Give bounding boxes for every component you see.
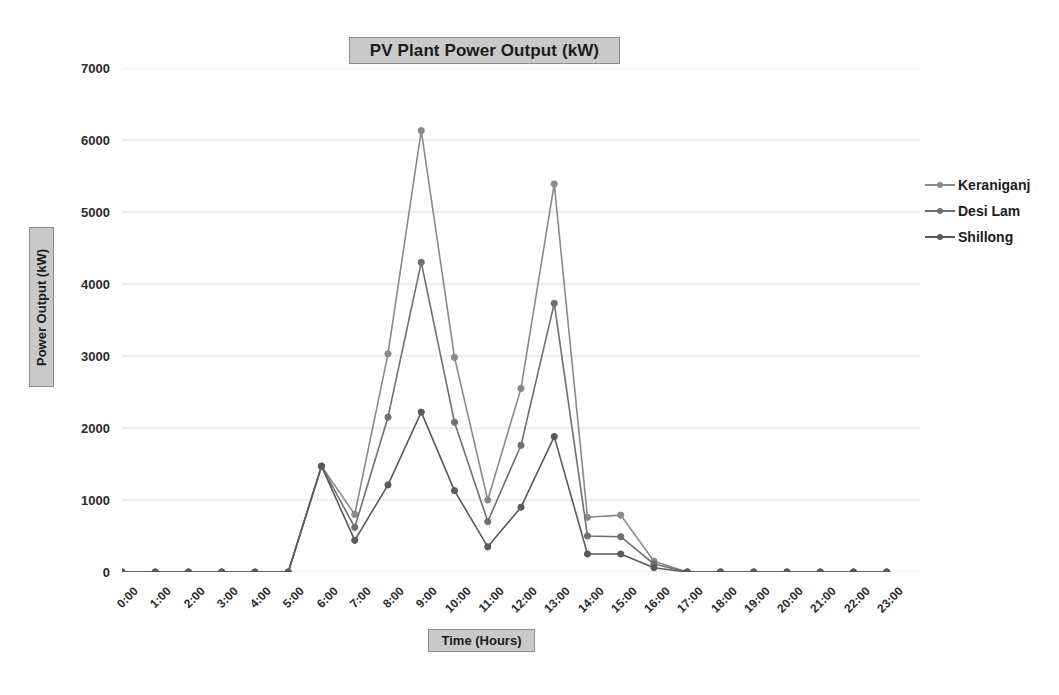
x-axis-tick-label: 14:00	[575, 584, 607, 616]
x-axis-tick-label: 3:00	[214, 584, 241, 611]
x-axis-tick-label: 1:00	[147, 584, 174, 611]
x-axis-tick-label: 12:00	[508, 584, 540, 616]
x-axis-tick-label: 19:00	[741, 584, 773, 616]
x-axis-tick-label: 20:00	[774, 584, 806, 616]
x-axis-tick-label: 18:00	[708, 584, 740, 616]
x-axis-tick-label: 21:00	[808, 584, 840, 616]
legend-item[interactable]: Keraniganj	[925, 172, 1055, 198]
x-axis-tick-label: 13:00	[542, 584, 574, 616]
legend-label: Shillong	[958, 229, 1013, 245]
x-axis-tick-label: 2:00	[181, 584, 208, 611]
legend-line-marker-icon	[925, 204, 955, 218]
x-axis-tick-label: 15:00	[608, 584, 640, 616]
x-axis-tick-label: 6:00	[314, 584, 341, 611]
pv-plant-power-output-chart: PV Plant Power Output (kW) Power Output …	[0, 0, 1059, 695]
x-axis-tick-label: 22:00	[841, 584, 873, 616]
legend-label: Desi Lam	[958, 203, 1020, 219]
x-axis-tick-label: 11:00	[476, 584, 507, 615]
x-axis-tick-label: 10:00	[442, 584, 474, 616]
x-axis-tick-label: 5:00	[280, 584, 307, 611]
chart-legend: KeraniganjDesi LamShillong	[925, 172, 1055, 250]
legend-label: Keraniganj	[958, 177, 1030, 193]
x-axis-tick-label: 16:00	[641, 584, 673, 616]
legend-item[interactable]: Shillong	[925, 224, 1055, 250]
legend-line-marker-icon	[925, 178, 955, 192]
x-axis-tick-label: 9:00	[413, 584, 440, 611]
x-axis-tick-label: 17:00	[675, 584, 707, 616]
x-axis-tick-label: 8:00	[380, 584, 407, 611]
x-axis-tick-label: 0:00	[114, 584, 141, 611]
x-axis-tick-label: 4:00	[247, 584, 274, 611]
legend-line-marker-icon	[925, 230, 955, 244]
legend-item[interactable]: Desi Lam	[925, 198, 1055, 224]
x-axis-tick-labels: 0:001:002:003:004:005:006:007:008:009:00…	[0, 0, 1059, 695]
x-axis-tick-label: 23:00	[874, 584, 906, 616]
x-axis-tick-label: 7:00	[347, 584, 374, 611]
